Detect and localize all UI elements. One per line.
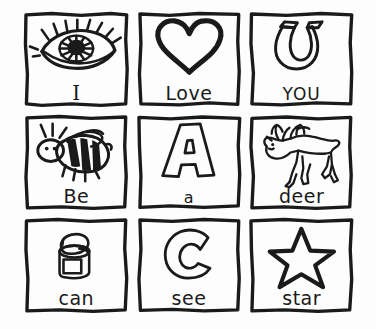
- rebus-sheet: I Love: [0, 0, 376, 329]
- rebus-cell-heart[interactable]: Love: [135, 10, 244, 109]
- cell-frame-star: [247, 216, 356, 315]
- rebus-grid: I Love: [22, 10, 356, 314]
- rebus-cell-star[interactable]: star: [247, 216, 356, 315]
- rebus-cell-magnet[interactable]: YOU: [247, 10, 356, 109]
- cell-frame-letter-a: [135, 113, 244, 212]
- rebus-cell-bee[interactable]: Be: [22, 113, 131, 212]
- cell-frame-magnet: [247, 10, 356, 109]
- cell-frame-deer: [247, 113, 356, 212]
- cell-frame-heart: [135, 10, 244, 109]
- cell-frame-bee: [22, 113, 131, 212]
- cell-frame-eye: [22, 10, 131, 109]
- cell-frame-letter-c: [135, 216, 244, 315]
- rebus-cell-letter-a[interactable]: a: [135, 113, 244, 212]
- rebus-cell-can[interactable]: can: [22, 216, 131, 315]
- rebus-cell-deer[interactable]: deer: [247, 113, 356, 212]
- rebus-cell-eye[interactable]: I: [22, 10, 131, 109]
- cell-frame-can: [22, 216, 131, 315]
- rebus-cell-letter-c[interactable]: see: [135, 216, 244, 315]
